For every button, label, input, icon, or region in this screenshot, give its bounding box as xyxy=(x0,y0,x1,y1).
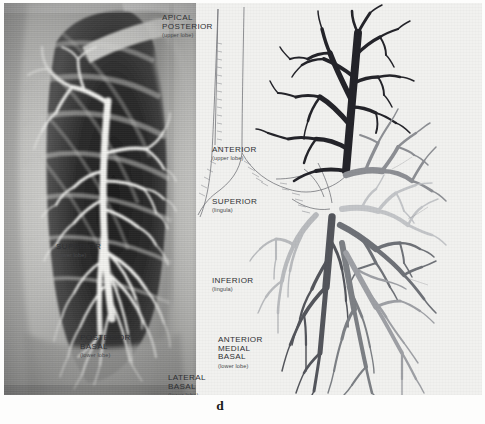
label-lobe: (lower lobe) xyxy=(80,352,131,358)
label-line-1: SUPERIOR xyxy=(56,243,101,252)
label-line-2: BASAL xyxy=(80,343,131,352)
label-line-2: BASAL xyxy=(168,383,206,392)
label-line-2: POSTERIOR xyxy=(162,23,213,32)
segment-superior-lower xyxy=(250,215,316,333)
label-apical-posterior: APICAL POSTERIOR (upper lobe) xyxy=(162,14,213,38)
figure-caption: d xyxy=(205,398,235,414)
label-lobe: (lingula) xyxy=(212,286,253,292)
label-line-1: ANTERIOR xyxy=(212,146,257,155)
segment-apical-posterior xyxy=(256,5,414,181)
label-lobe: (upper lobe) xyxy=(162,32,213,38)
label-anterior-medial-basal: ANTERIOR MEDIAL BASAL (lower lobe) xyxy=(218,336,263,369)
label-lateral-basal: LATERAL BASAL (lower lobe) xyxy=(168,374,206,395)
label-line-3: BASAL xyxy=(218,353,263,362)
label-lobe: (lower lobe) xyxy=(56,252,101,258)
label-superior-lower: SUPERIOR (lower lobe) xyxy=(56,243,101,258)
spine xyxy=(170,3,173,303)
label-line-1: SUPERIOR xyxy=(212,198,257,207)
trachea-outline xyxy=(198,7,288,217)
label-superior-lingula: SUPERIOR (lingula) xyxy=(212,198,257,213)
printed-plate: .ol { fill:none; stroke:#6d6f74; stroke-… xyxy=(4,3,482,395)
label-lobe: (lingula) xyxy=(212,207,257,213)
label-inferior-lingula: INFERIOR (lingula) xyxy=(212,277,253,292)
label-lobe: (lower lobe) xyxy=(218,363,263,369)
label-lobe: (upper lobe) xyxy=(212,155,257,161)
figure-plate: .ol { fill:none; stroke:#6d6f74; stroke-… xyxy=(0,0,485,424)
label-line-1: INFERIOR xyxy=(212,277,253,286)
label-posterior-basal: POSTERIOR BASAL (lower lobe) xyxy=(80,334,131,358)
label-anterior-upper: ANTERIOR (upper lobe) xyxy=(212,146,257,161)
label-lobe: (lower lobe) xyxy=(168,392,206,395)
